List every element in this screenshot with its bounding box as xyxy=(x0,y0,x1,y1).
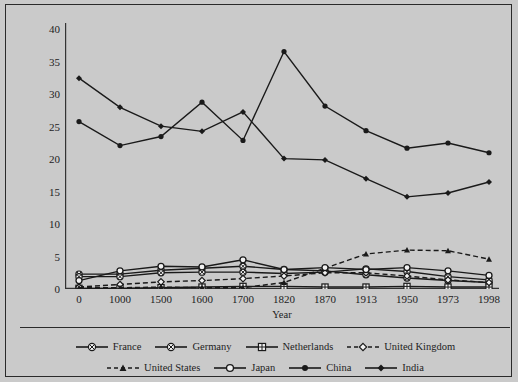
x-axis-tick-label: 1820 xyxy=(273,293,295,305)
legend-label: United States xyxy=(143,362,200,373)
chart-legend: FranceGermanyNetherlandsUnited Kingdom U… xyxy=(20,327,510,378)
series-china xyxy=(76,49,491,155)
y-axis-tick-label: 15 xyxy=(49,186,60,198)
legend-item-united-kingdom[interactable]: United Kingdom xyxy=(346,340,455,354)
legend-label: United Kingdom xyxy=(383,341,455,352)
x-axis-tick-label: 1500 xyxy=(150,293,172,305)
legend-label: Netherlands xyxy=(282,341,334,352)
y-axis-tick-label: 30 xyxy=(49,88,60,100)
legend-marker-united-kingdom-icon xyxy=(346,340,380,354)
legend-label: France xyxy=(112,341,142,352)
legend-item-united-states[interactable]: United States xyxy=(106,361,200,375)
x-axis-tick-label: 0 xyxy=(76,293,82,305)
x-axis-tick-label: 1000 xyxy=(109,293,131,305)
chart-frame: Share of world population 05101520253035… xyxy=(5,4,512,377)
x-axis-tick-label: 1600 xyxy=(191,293,213,305)
legend-marker-germany-icon xyxy=(154,340,188,354)
series-india xyxy=(76,75,492,200)
x-axis-tick-label: 1950 xyxy=(396,293,418,305)
legend-label: Germany xyxy=(191,341,231,352)
y-axis-tick-label: 40 xyxy=(49,23,60,35)
legend-item-france[interactable]: France xyxy=(75,340,142,354)
legend-item-india[interactable]: India xyxy=(364,361,424,375)
y-axis-tick-label: 20 xyxy=(49,153,60,165)
x-axis-tick-label: 1998 xyxy=(478,293,500,305)
legend-item-china[interactable]: China xyxy=(288,361,351,375)
y-axis-tick-label: 35 xyxy=(49,56,60,68)
legend-item-germany[interactable]: Germany xyxy=(154,340,231,354)
legend-item-japan[interactable]: Japan xyxy=(213,361,275,375)
legend-marker-united-states-icon xyxy=(106,361,140,375)
x-axis-tick-label: 1700 xyxy=(232,293,254,305)
legend-label: India xyxy=(401,362,424,373)
plot-area: Share of world population 05101520253035… xyxy=(65,23,499,289)
legend-label: Japan xyxy=(250,362,275,373)
legend-item-netherlands[interactable]: Netherlands xyxy=(245,340,334,354)
y-axis-tick-label: 10 xyxy=(49,218,60,230)
x-axis-tick-label: 1870 xyxy=(314,293,336,305)
legend-marker-china-icon xyxy=(288,361,322,375)
y-axis-tick-label: 0 xyxy=(55,283,61,295)
y-axis-tick-label: 25 xyxy=(49,121,60,133)
legend-row-2: United StatesJapanChinaIndia xyxy=(20,357,510,378)
x-axis-title: Year xyxy=(65,309,499,320)
chart-lines xyxy=(65,23,499,289)
legend-marker-netherlands-icon xyxy=(245,340,279,354)
legend-marker-japan-icon xyxy=(213,361,247,375)
legend-marker-france-icon xyxy=(75,340,109,354)
y-axis-title: Share of world population xyxy=(23,0,34,41)
x-axis-tick-label: 1913 xyxy=(355,293,377,305)
legend-label: China xyxy=(325,362,351,373)
legend-marker-india-icon xyxy=(364,361,398,375)
y-axis-tick-label: 5 xyxy=(55,251,61,263)
legend-row-1: FranceGermanyNetherlandsUnited Kingdom xyxy=(20,336,510,357)
x-axis-tick-label: 1973 xyxy=(437,293,459,305)
chart-figure: Share of world population 05101520253035… xyxy=(0,0,518,382)
